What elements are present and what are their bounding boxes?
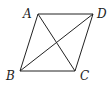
label-B: B — [5, 69, 15, 83]
edge-BA — [20, 14, 38, 71]
parallelogram-diagram: A D B C — [0, 0, 110, 90]
edge-DC — [75, 14, 93, 71]
label-A: A — [22, 7, 32, 21]
label-C: C — [80, 69, 89, 83]
diagonal-BD — [20, 14, 93, 71]
label-D: D — [96, 7, 107, 21]
